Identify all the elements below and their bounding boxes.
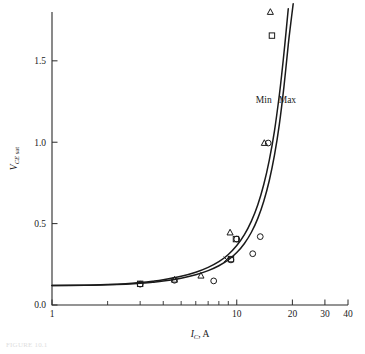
y-tick-label: 1.0 bbox=[34, 138, 46, 148]
curve-min bbox=[52, 9, 288, 286]
saturation-voltage-chart: 1102030400.00.51.01.5MinMaxIC, AVCE sat bbox=[0, 0, 365, 354]
x-axis-title: IC, A bbox=[190, 329, 210, 340]
x-tick-label: 10 bbox=[232, 309, 242, 319]
axes-group bbox=[52, 12, 348, 305]
data-point-triangle bbox=[227, 229, 233, 235]
figure-container: 1102030400.00.51.01.5MinMaxIC, AVCE sat bbox=[0, 0, 365, 354]
figure-caption: FIGURE 10.1 bbox=[6, 341, 47, 349]
axis-spines bbox=[52, 12, 348, 305]
y-tick-label: 1.5 bbox=[34, 56, 46, 66]
scatter-markers-group bbox=[137, 9, 274, 287]
y-axis-title: VCE sat bbox=[9, 147, 20, 170]
data-point-square bbox=[269, 33, 274, 38]
curves-group bbox=[52, 4, 293, 286]
curve-max bbox=[52, 4, 293, 286]
x-tick-label: 1 bbox=[50, 309, 55, 319]
curve-label-min: Min bbox=[256, 95, 272, 105]
data-point-circle bbox=[257, 234, 263, 240]
data-point-circle bbox=[250, 251, 256, 257]
data-point-circle bbox=[211, 278, 217, 284]
curve-label-max: Max bbox=[279, 95, 297, 105]
x-tick-label: 40 bbox=[343, 309, 353, 319]
labels-group: 1102030400.00.51.01.5MinMaxIC, AVCE sat bbox=[9, 56, 353, 340]
x-tick-label: 30 bbox=[320, 309, 330, 319]
data-point-triangle bbox=[267, 9, 273, 15]
y-tick-label: 0.0 bbox=[34, 300, 46, 310]
x-tick-label: 20 bbox=[288, 309, 298, 319]
y-tick-label: 0.5 bbox=[34, 219, 46, 229]
